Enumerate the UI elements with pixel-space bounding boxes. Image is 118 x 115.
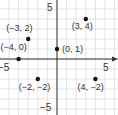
data-points: (−3, 2)(3, 4)(−4, 0)(0, 1)(−2, −2)(4, −2…	[1, 17, 104, 92]
y-tick-neg5: −5	[40, 102, 52, 113]
x-tick-5: 5	[103, 62, 109, 73]
point-label: (−2, −2)	[19, 82, 51, 92]
point-label: (−3, 2)	[6, 23, 32, 33]
y-tick-5: 5	[47, 2, 53, 13]
data-point	[16, 57, 20, 61]
data-point	[93, 77, 97, 81]
point-label: (4, −2)	[77, 82, 103, 92]
point-label: (−4, 0)	[1, 42, 27, 52]
point-label: (3, 4)	[72, 21, 93, 31]
coordinate-plane: 5 −5 −5 5 (−3, 2)(3, 4)(−4, 0)(0, 1)(−2,…	[0, 0, 118, 115]
x-tick-neg5: −5	[0, 62, 10, 73]
data-point	[55, 47, 59, 51]
point-label: (0, 1)	[62, 44, 83, 54]
data-point	[26, 37, 30, 41]
data-point	[36, 77, 40, 81]
